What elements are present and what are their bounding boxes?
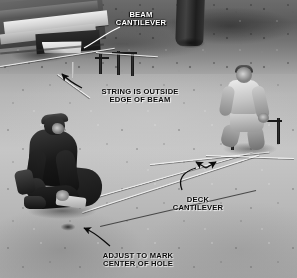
batter-board-crossbar-2 [95, 57, 109, 59]
annotation-deck-cantilever: DECK CANTILEVER [173, 196, 224, 212]
worker-right-head [236, 67, 252, 83]
annotation-string-is-outside-edge-of-beam: STRING IS OUTSIDE EDGE OF BEAM [101, 88, 178, 104]
marked-footing-hole [58, 222, 78, 232]
tree-trunk-base-shadow [172, 38, 210, 50]
worker-right-hand [258, 113, 269, 123]
annotation-beam-cantilever: BEAM CANTILEVER [116, 11, 167, 27]
worker-left-hand [56, 190, 69, 201]
batter-board-stake-4 [72, 62, 74, 78]
instructional-photo: BEAM CANTILEVER STRING IS OUTSIDE EDGE O… [0, 0, 297, 278]
annotation-adjust-to-mark-center-of-hole: ADJUST TO MARK CENTER OF HOLE [103, 252, 174, 268]
worker-left-face [52, 123, 64, 134]
worker-left-boot [24, 196, 46, 209]
batter-board-stake-3 [131, 53, 134, 76]
